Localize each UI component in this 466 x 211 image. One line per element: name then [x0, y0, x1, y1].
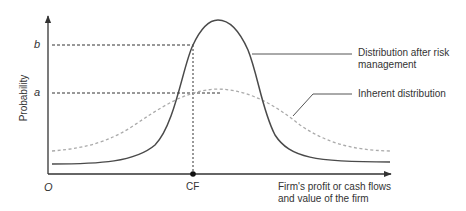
- inherent-distribution-curve: [52, 89, 390, 151]
- managed-label-line2: management: [358, 59, 416, 71]
- level-b-label: b: [34, 38, 40, 50]
- managed-label-line1: Distribution after risk: [358, 47, 449, 59]
- x-axis-label-line1: Firm's profit or cash flows: [278, 181, 391, 193]
- distribution-diagram: [0, 0, 466, 211]
- origin-label: O: [44, 181, 53, 193]
- cf-point: [190, 171, 196, 177]
- inherent-label: Inherent distribution: [358, 88, 446, 100]
- level-a-label: a: [34, 86, 40, 98]
- managed-distribution-curve: [52, 20, 390, 164]
- inherent-leader-line: [293, 94, 352, 116]
- cf-label: CF: [186, 181, 199, 193]
- y-axis-label: Probability: [18, 68, 30, 128]
- x-axis-label-line2: and value of the firm: [278, 193, 369, 205]
